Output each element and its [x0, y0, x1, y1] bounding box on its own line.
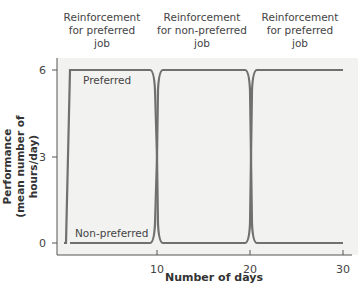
- y-axis-label-line-2: (mean number of hours/day): [14, 92, 40, 242]
- y-tick-label-0: 0: [39, 237, 46, 250]
- x-axis-label: Number of days: [165, 271, 263, 284]
- chart-plot: 0 3 6 10 20 30 Preferred Non-preferred: [0, 0, 358, 301]
- plot-background: [57, 58, 358, 255]
- y-tick-label-3: 3: [39, 151, 46, 164]
- y-tick-label-6: 6: [39, 64, 46, 77]
- x-tick-label-10: 10: [150, 263, 164, 276]
- x-tick-label-30: 30: [336, 263, 350, 276]
- preferred-series-label: Preferred: [83, 74, 131, 86]
- y-axis-label-line-1: Performance: [1, 92, 14, 242]
- non-preferred-series-label: Non-preferred: [75, 227, 148, 239]
- y-axis-label: Performance (mean number of hours/day): [1, 92, 40, 242]
